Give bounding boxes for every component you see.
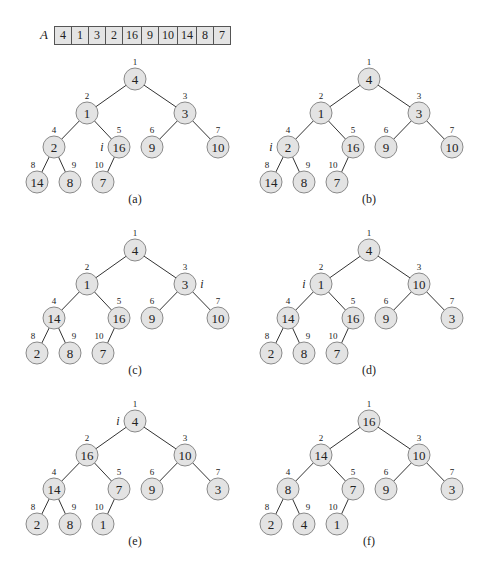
svg-text:14: 14: [31, 175, 45, 190]
index-label: 5: [117, 296, 122, 306]
heap-node: 33: [408, 91, 430, 124]
heap-node: 144: [277, 296, 299, 329]
heap-panel-f: 161142103847596372849110: [260, 399, 463, 535]
heap-node: 28: [26, 502, 48, 535]
svg-text:14: 14: [315, 448, 329, 463]
index-label: 8: [265, 160, 270, 170]
index-label: 6: [384, 467, 389, 477]
svg-text:16: 16: [81, 448, 95, 463]
i-marker: i: [302, 277, 305, 291]
i-marker: i: [116, 414, 119, 428]
index-label: 2: [85, 91, 90, 101]
svg-text:9: 9: [149, 140, 156, 155]
svg-text:8: 8: [301, 175, 308, 190]
index-label: 1: [367, 57, 372, 67]
index-label: 1: [133, 399, 138, 409]
heap-panel-b: 41123324i1659610714889710: [260, 57, 463, 193]
index-label: 6: [384, 296, 389, 306]
svg-text:9: 9: [149, 482, 156, 497]
svg-text:4: 4: [132, 72, 139, 87]
index-label: 9: [72, 502, 77, 512]
heap-node: 96: [141, 296, 163, 329]
index-label: 10: [95, 331, 105, 341]
svg-text:9: 9: [383, 140, 390, 155]
i-marker: i: [100, 140, 103, 154]
svg-text:1: 1: [100, 517, 107, 532]
svg-text:14: 14: [265, 175, 279, 190]
index-label: 6: [150, 296, 155, 306]
i-marker: i: [269, 140, 272, 154]
heap-node: 165: [108, 296, 130, 329]
index-label: 6: [150, 467, 155, 477]
heap-node: 28: [26, 331, 48, 364]
index-label: 7: [450, 125, 455, 135]
index-label: 4: [286, 125, 291, 135]
svg-text:4: 4: [366, 243, 373, 258]
heap-node: 12i: [302, 262, 332, 295]
heap-node: 165i: [100, 125, 130, 158]
svg-text:1: 1: [318, 106, 325, 121]
svg-text:2: 2: [285, 140, 292, 155]
svg-text:3: 3: [182, 106, 189, 121]
index-label: 6: [150, 125, 155, 135]
index-label: 3: [417, 433, 422, 443]
svg-text:1: 1: [334, 517, 341, 532]
svg-text:9: 9: [149, 311, 156, 326]
panel-caption-c: (c): [128, 363, 141, 378]
index-label: 5: [351, 296, 356, 306]
index-label: 10: [329, 331, 339, 341]
index-label: 9: [72, 331, 77, 341]
svg-text:2: 2: [34, 517, 41, 532]
index-label: 5: [117, 467, 122, 477]
heap-node: 161: [358, 399, 380, 432]
index-label: 1: [367, 228, 372, 238]
index-label: 1: [133, 57, 138, 67]
index-label: 2: [85, 262, 90, 272]
svg-text:14: 14: [282, 311, 296, 326]
svg-text:10: 10: [446, 140, 459, 155]
panel-caption-b: (b): [362, 192, 376, 207]
svg-text:14: 14: [48, 311, 62, 326]
heap-node: 41: [124, 228, 146, 261]
index-label: 7: [216, 125, 221, 135]
heap-node: 75: [342, 467, 364, 500]
svg-text:3: 3: [416, 106, 423, 121]
index-label: 3: [417, 262, 422, 272]
index-label: 4: [286, 296, 291, 306]
svg-text:7: 7: [100, 346, 107, 361]
index-label: 10: [95, 502, 105, 512]
heap-node: 41: [124, 57, 146, 90]
svg-text:3: 3: [182, 277, 189, 292]
svg-text:1: 1: [84, 277, 91, 292]
heap-node: 41i: [116, 399, 146, 432]
heap-node: 75: [108, 467, 130, 500]
heap-node: 142: [310, 433, 332, 466]
index-label: 3: [417, 91, 422, 101]
heap-node: 103: [174, 433, 196, 466]
svg-text:9: 9: [383, 482, 390, 497]
svg-text:10: 10: [212, 311, 225, 326]
heap-node: 103: [408, 433, 430, 466]
panel-caption-f: (f): [363, 534, 375, 549]
index-label: 2: [319, 262, 324, 272]
heap-node: 148: [26, 160, 48, 193]
index-label: 2: [319, 433, 324, 443]
svg-text:16: 16: [113, 311, 127, 326]
svg-text:8: 8: [67, 517, 74, 532]
heap-node: 37: [441, 467, 463, 500]
index-label: 9: [306, 331, 311, 341]
index-label: 2: [85, 433, 90, 443]
svg-text:10: 10: [413, 448, 426, 463]
heap-node: 96: [141, 125, 163, 158]
heap-node: 96: [375, 125, 397, 158]
heap-node: 107: [207, 296, 229, 329]
svg-text:7: 7: [100, 175, 107, 190]
heap-panel-c: 411233i144165961072889710: [26, 228, 229, 364]
svg-text:16: 16: [113, 140, 127, 155]
svg-text:2: 2: [268, 517, 275, 532]
heap-node: 41: [358, 228, 380, 261]
heap-node: 33i: [174, 262, 204, 295]
index-label: 8: [265, 502, 270, 512]
heap-panel-e: 41i1621031447596372889110: [26, 399, 229, 535]
panel-caption-d: (d): [362, 363, 376, 378]
